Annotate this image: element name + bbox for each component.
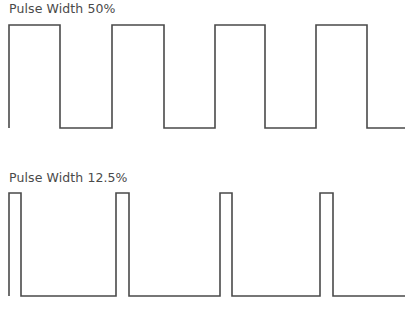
square-wave-50-percent	[9, 25, 405, 128]
square-wave-12-5-percent	[9, 193, 405, 296]
waveform-canvas	[0, 0, 407, 309]
